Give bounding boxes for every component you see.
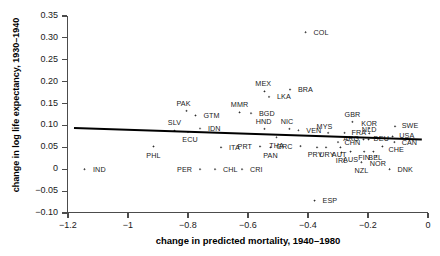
y-tick-label: −0.05: [12, 185, 58, 195]
y-tick-label: 0.35: [12, 10, 58, 20]
y-tick-label: 0.05: [12, 141, 58, 151]
y-tick-label: 0.30: [12, 32, 58, 42]
data-point-marker: [316, 146, 319, 149]
data-point-label: PRT: [238, 142, 253, 151]
data-point-label: SLV: [168, 118, 181, 127]
y-tick-mark: [62, 169, 67, 170]
x-tick-label: −1: [108, 220, 148, 230]
y-tick-label: −0.10: [12, 207, 58, 217]
x-tick-label: 0: [408, 220, 440, 230]
data-point-marker: [268, 95, 271, 98]
data-point-label: DNK: [398, 165, 413, 174]
data-point-label: NIC: [281, 117, 294, 126]
data-point-marker: [152, 145, 155, 148]
data-point-label: AUS: [343, 155, 358, 164]
data-point-marker: [388, 168, 391, 171]
data-point-marker: [394, 125, 397, 128]
x-tick-mark: [367, 213, 368, 218]
data-point-marker: [360, 161, 363, 164]
data-point-label: PER: [177, 165, 192, 174]
data-point-label: GBR: [344, 110, 360, 119]
x-axis-title: change in predicted mortality, 1940–1980: [68, 235, 428, 246]
data-point-label: MMR: [231, 100, 248, 109]
y-tick-label: 0: [12, 163, 58, 173]
data-point-marker: [375, 155, 378, 158]
y-tick-label: 0.20: [12, 76, 58, 86]
data-point-marker: [351, 120, 354, 123]
x-tick-label: −0.2: [348, 220, 388, 230]
data-point-label: KOR: [361, 119, 377, 128]
y-axis-line: [67, 16, 68, 213]
data-point-marker: [194, 114, 197, 117]
data-point-label: HND: [256, 117, 272, 126]
data-point-marker: [393, 141, 396, 144]
x-tick-mark: [127, 213, 128, 218]
data-point-marker: [185, 109, 188, 112]
data-point-label: MEX: [255, 79, 271, 88]
data-point-label: GRC: [276, 142, 292, 151]
y-tick-mark: [62, 103, 67, 104]
y-tick-mark: [62, 81, 67, 82]
scatter-plot-figure: change in log life expectancy, 1930–1940…: [0, 0, 440, 256]
y-tick-mark: [62, 125, 67, 126]
y-tick-label: 0.10: [12, 119, 58, 129]
y-tick-label: 0.25: [12, 54, 58, 64]
data-point-label: CRI: [250, 165, 263, 174]
data-point-marker: [199, 127, 202, 130]
data-point-marker: [339, 146, 342, 149]
data-point-marker: [299, 145, 302, 148]
x-tick-mark: [427, 213, 428, 218]
x-tick-label: −0.8: [168, 220, 208, 230]
data-point-marker: [327, 131, 330, 134]
data-point-marker: [313, 199, 316, 202]
y-tick-label: 0.15: [12, 98, 58, 108]
data-point-marker: [199, 168, 202, 171]
data-point-label: GTM: [203, 111, 219, 120]
data-point-label: ESP: [323, 196, 338, 205]
data-point-marker: [263, 90, 266, 93]
x-tick-mark: [307, 213, 308, 218]
y-tick-mark: [62, 191, 67, 192]
data-point-marker: [289, 88, 292, 91]
y-tick-mark: [62, 212, 67, 213]
data-point-label: PHL: [146, 151, 160, 160]
data-point-marker: [337, 141, 340, 144]
x-tick-mark: [187, 213, 188, 218]
data-point-marker: [349, 150, 352, 153]
data-point-marker: [275, 136, 278, 139]
data-point-label: NZL: [354, 166, 368, 175]
data-point-label: IND: [93, 165, 106, 174]
data-point-marker: [304, 31, 307, 34]
y-tick-mark: [62, 15, 67, 16]
data-point-label: LKA: [277, 92, 291, 101]
data-point-marker: [263, 127, 266, 130]
data-point-marker: [288, 127, 291, 130]
y-tick-mark: [62, 59, 67, 60]
data-point-label: SWE: [402, 121, 419, 130]
y-tick-mark: [62, 147, 67, 148]
data-point-label: NOR: [370, 159, 386, 168]
data-point-label: ECU: [182, 135, 197, 144]
data-point-marker: [83, 168, 86, 171]
data-point-marker: [238, 111, 241, 114]
data-point-label: COL: [314, 28, 329, 37]
x-tick-label: −1.2: [48, 220, 88, 230]
data-point-label: PAN: [263, 151, 278, 160]
y-tick-mark: [62, 37, 67, 38]
x-tick-label: −0.4: [288, 220, 328, 230]
data-point-marker: [325, 146, 328, 149]
data-point-marker: [340, 151, 343, 154]
data-point-label: BRA: [298, 85, 313, 94]
data-point-marker: [250, 112, 253, 115]
x-tick-mark: [67, 213, 68, 218]
data-point-marker: [259, 145, 262, 148]
x-tick-mark: [247, 213, 248, 218]
x-tick-label: −0.6: [228, 220, 268, 230]
data-point-marker: [241, 168, 244, 171]
data-point-marker: [214, 168, 217, 171]
data-point-marker: [297, 129, 300, 132]
data-point-label: MYS: [317, 122, 333, 131]
data-point-label: CHL: [223, 165, 238, 174]
data-point-marker: [381, 145, 384, 148]
data-point-marker: [220, 146, 223, 149]
